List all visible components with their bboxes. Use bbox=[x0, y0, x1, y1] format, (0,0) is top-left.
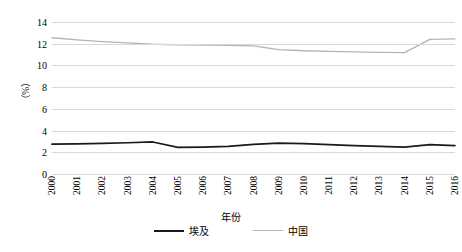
x-axis-tick-2014: 2014 bbox=[400, 176, 410, 195]
gridline-2 bbox=[52, 152, 455, 153]
x-axis-tick-2009: 2009 bbox=[274, 176, 284, 195]
x-axis-tick-2015: 2015 bbox=[425, 176, 435, 195]
x-axis-tick-2010: 2010 bbox=[299, 176, 309, 195]
x-axis-tick-2013: 2013 bbox=[374, 176, 384, 195]
y-axis-tick-10: 10 bbox=[37, 60, 47, 71]
legend-label-egypt: 埃及 bbox=[189, 223, 209, 238]
y-axis-tick-8: 8 bbox=[42, 82, 47, 93]
x-axis-tick-2007: 2007 bbox=[223, 176, 233, 195]
x-axis-tick-2006: 2006 bbox=[198, 176, 208, 195]
gridline-4 bbox=[52, 131, 455, 132]
x-axis-tick-2011: 2011 bbox=[324, 176, 334, 195]
plot-area: 14121086420 bbox=[52, 22, 455, 174]
legend-item-china[interactable]: 中国 bbox=[253, 223, 308, 238]
x-axis-tick-2016: 2016 bbox=[450, 176, 460, 195]
x-axis-tick-2012: 2012 bbox=[349, 176, 359, 195]
y-axis-tick-14: 14 bbox=[37, 17, 47, 28]
x-axis-tick-2004: 2004 bbox=[148, 176, 158, 195]
x-axis-tick-2001: 2001 bbox=[72, 176, 82, 195]
legend-line-icon-china bbox=[253, 230, 283, 231]
y-axis-tick-12: 12 bbox=[37, 38, 47, 49]
x-axis-tick-2003: 2003 bbox=[123, 176, 133, 195]
y-axis-tick-4: 4 bbox=[42, 125, 47, 136]
chart-legend: 埃及 中国 bbox=[0, 223, 462, 238]
legend-label-china: 中国 bbox=[288, 223, 308, 238]
y-axis-tick-6: 6 bbox=[42, 103, 47, 114]
gridline-10 bbox=[52, 65, 455, 66]
x-axis-tick-2005: 2005 bbox=[173, 176, 183, 195]
series-layer bbox=[52, 22, 455, 174]
series-line-埃及 bbox=[52, 142, 455, 147]
series-line-中国 bbox=[52, 38, 455, 53]
gridline-12 bbox=[52, 44, 455, 45]
x-axis-tick-2002: 2002 bbox=[97, 176, 107, 195]
gridline-8 bbox=[52, 87, 455, 88]
x-axis-title: 年份 bbox=[0, 209, 462, 224]
x-axis-tick-2000: 2000 bbox=[47, 176, 57, 195]
x-axis-tick-2008: 2008 bbox=[249, 176, 259, 195]
y-axis-title: （%） bbox=[22, 74, 32, 108]
gridline-0 bbox=[52, 174, 455, 175]
y-axis-tick-2: 2 bbox=[42, 147, 47, 158]
gridline-14 bbox=[52, 22, 455, 23]
legend-item-egypt[interactable]: 埃及 bbox=[154, 223, 209, 238]
x-axis-tick-labels: 2000200120022003200420052006200720082009… bbox=[52, 176, 455, 208]
legend-line-icon-egypt bbox=[154, 230, 184, 232]
gridline-6 bbox=[52, 109, 455, 110]
line-chart: （%） 14121086420 200020012002200320042005… bbox=[0, 0, 462, 252]
